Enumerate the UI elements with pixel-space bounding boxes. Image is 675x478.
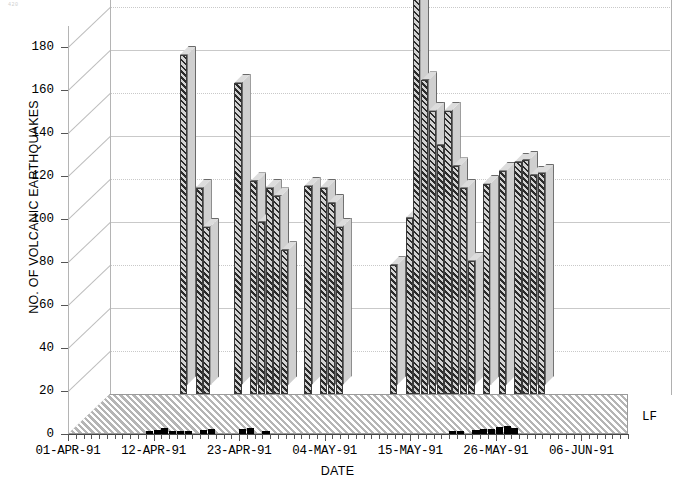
x-tick-mark	[472, 434, 473, 439]
x-tick-label: 26-MAY-91	[463, 444, 528, 458]
x-tick-mark	[574, 434, 575, 439]
bar-hf	[421, 80, 428, 394]
bar-front-face	[406, 218, 413, 394]
x-tick-mark	[371, 434, 372, 439]
bar-lf	[504, 426, 511, 434]
x-tick-mark	[605, 434, 606, 439]
x-tick-mark	[535, 434, 536, 439]
bar-hf	[514, 162, 521, 394]
bar-front-face	[328, 203, 335, 394]
x-tick-mark	[185, 434, 186, 439]
bar-front-face	[538, 173, 545, 394]
x-tick-mark	[620, 434, 621, 439]
x-tick-label: 01-APR-91	[36, 444, 101, 458]
x-tick-mark	[301, 434, 302, 439]
x-tick-mark	[426, 434, 427, 439]
bar-hf	[180, 55, 187, 394]
bar-hf	[266, 188, 273, 394]
bar-front-face	[320, 188, 327, 394]
x-tick-mark	[286, 434, 287, 439]
x-tick-mark	[504, 434, 505, 439]
x-tick-mark	[200, 434, 201, 439]
bar-front-face	[304, 186, 311, 394]
bar-hf	[444, 111, 451, 394]
x-tick-label: 23-APR-91	[207, 444, 272, 458]
x-tick-label: 06-JUN-91	[549, 444, 614, 458]
x-tick-mark	[317, 434, 318, 439]
x-tick-mark	[410, 434, 411, 441]
bar-side-face	[288, 241, 297, 385]
bar-hf	[328, 203, 335, 394]
bar-hf	[460, 188, 467, 394]
x-tick-mark	[84, 434, 85, 439]
bar-hf	[281, 250, 288, 394]
bar-hf	[273, 196, 280, 394]
x-tick-mark	[115, 434, 116, 439]
x-tick-mark	[325, 434, 326, 441]
bar-hf	[452, 166, 459, 394]
x-tick-mark	[177, 434, 178, 439]
bar-front-face	[499, 171, 506, 394]
x-tick-mark	[154, 434, 155, 441]
x-tick-mark	[612, 434, 613, 439]
x-tick-mark	[348, 434, 349, 439]
x-tick-label: 04-MAY-91	[292, 444, 357, 458]
x-tick-mark	[589, 434, 590, 439]
x-tick-mark	[169, 434, 170, 439]
x-tick-mark	[449, 434, 450, 439]
bar-side-face	[343, 218, 352, 385]
x-tick-mark	[76, 434, 77, 439]
x-tick-mark	[364, 434, 365, 439]
bar-hf	[234, 83, 241, 394]
x-tick-mark	[255, 434, 256, 439]
x-tick-mark	[558, 434, 559, 439]
bar-hf	[406, 218, 413, 394]
plot-bars	[0, 0, 675, 478]
x-tick-mark	[138, 434, 139, 439]
x-tick-mark	[262, 434, 263, 439]
x-tick-mark	[542, 434, 543, 439]
bar-side-face	[545, 164, 554, 385]
bar-front-face	[203, 227, 210, 394]
bar-front-face	[522, 160, 529, 394]
x-tick-mark	[511, 434, 512, 439]
bar-hf	[499, 171, 506, 394]
bar-front-face	[483, 184, 490, 394]
x-tick-label: 12-APR-91	[121, 444, 186, 458]
x-tick-label: 15-MAY-91	[378, 444, 443, 458]
x-tick-mark	[91, 434, 92, 439]
x-tick-mark	[488, 434, 489, 439]
x-tick-mark	[480, 434, 481, 439]
bar-front-face	[421, 80, 428, 394]
x-tick-mark	[294, 434, 295, 439]
chart-canvas: 420 NO. OF VOLCANIC EARTHQUAKES DATE HF …	[0, 0, 675, 478]
bar-hf	[250, 181, 257, 394]
x-tick-mark	[457, 434, 458, 439]
bar-front-face	[530, 175, 537, 394]
bar-hf	[336, 227, 343, 394]
x-tick-mark	[527, 434, 528, 439]
bar-front-face	[196, 188, 203, 394]
x-tick-mark	[239, 434, 240, 441]
x-tick-mark	[597, 434, 598, 439]
bar-front-face	[437, 145, 444, 394]
bar-front-face	[258, 222, 265, 394]
bar-front-face	[273, 196, 280, 394]
x-tick-mark	[581, 434, 582, 441]
x-tick-mark	[208, 434, 209, 439]
bar-hf	[437, 145, 444, 394]
bar-hf	[468, 261, 475, 394]
x-tick-mark	[628, 434, 629, 439]
bar-front-face	[460, 188, 467, 394]
x-tick-mark	[231, 434, 232, 439]
x-tick-mark	[465, 434, 466, 439]
x-tick-mark	[192, 434, 193, 439]
x-tick-mark	[107, 434, 108, 439]
bar-front-face	[390, 265, 397, 394]
x-tick-mark	[146, 434, 147, 439]
bar-front-face	[429, 111, 436, 394]
x-tick-mark	[441, 434, 442, 439]
floor-slab	[68, 394, 628, 434]
bar-front-face	[514, 162, 521, 394]
bar-hf	[320, 188, 327, 394]
